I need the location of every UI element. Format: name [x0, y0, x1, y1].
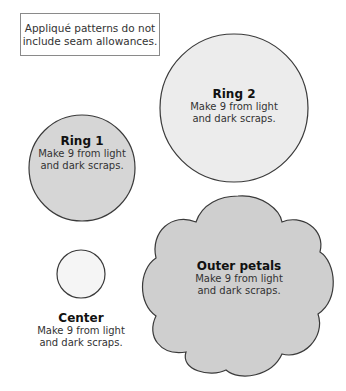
outer-petals-title: Outer petals: [184, 259, 294, 273]
ring-1-line-1: Make 9 from light: [32, 148, 132, 160]
ring-1-label: Ring 1 Make 9 from light and dark scraps…: [32, 134, 132, 172]
outer-petals-line-2: and dark scraps.: [184, 285, 294, 297]
ring-1-line-2: and dark scraps.: [32, 160, 132, 172]
ring-2-line-2: and dark scraps.: [184, 113, 284, 125]
ring-2-label: Ring 2 Make 9 from light and dark scraps…: [184, 87, 284, 125]
outer-petals-label: Outer petals Make 9 from light and dark …: [184, 259, 294, 297]
ring-1-title: Ring 1: [32, 134, 132, 148]
center-line-1: Make 9 from light: [31, 325, 131, 337]
center-label: Center Make 9 from light and dark scraps…: [31, 311, 131, 349]
center-line-2: and dark scraps.: [31, 337, 131, 349]
outer-petals-line-1: Make 9 from light: [184, 273, 294, 285]
ring-2-line-1: Make 9 from light: [184, 101, 284, 113]
ring-2-title: Ring 2: [184, 87, 284, 101]
center-shape: [57, 250, 105, 298]
center-title: Center: [31, 311, 131, 325]
